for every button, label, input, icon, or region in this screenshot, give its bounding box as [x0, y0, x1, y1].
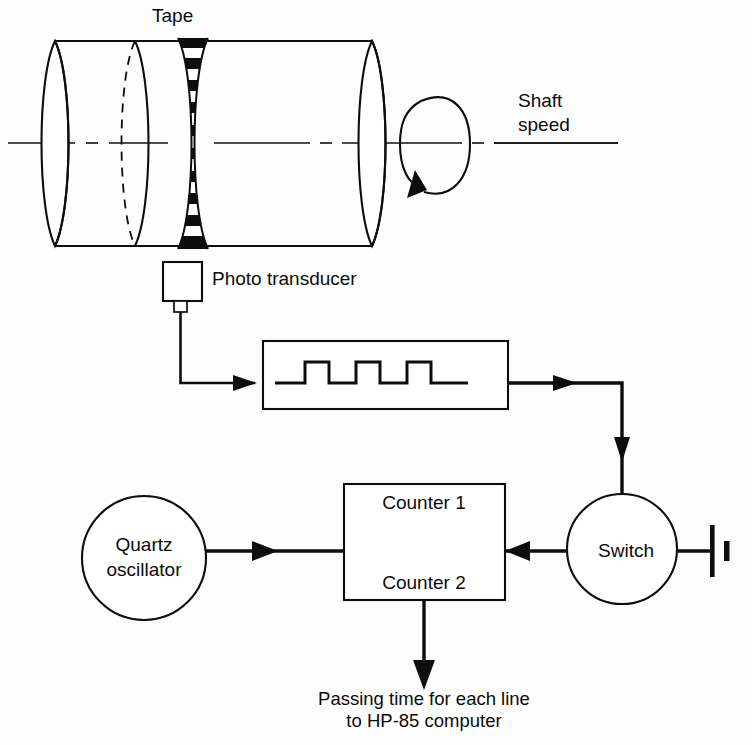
quartz-oscillator-label-line1: Quartz — [115, 534, 172, 555]
shaft-speed-label-line1: Shaft — [518, 90, 563, 111]
shaft-speed-label-line2: speed — [518, 114, 570, 135]
pulse-signal-box — [263, 341, 508, 409]
output-caption-line2: to HP-85 computer — [346, 710, 501, 731]
oscillator-to-counter-wire — [206, 541, 344, 561]
counter-2-label: Counter 2 — [382, 572, 465, 593]
striped-tape-band — [168, 38, 220, 249]
quartz-oscillator-label-line2: oscillator — [107, 559, 183, 580]
photo-transducer-label: Photo transducer — [212, 268, 357, 289]
diagram-canvas: Tape Shaft speed Photo transducer Quartz… — [0, 0, 752, 745]
output-caption-line1: Passing time for each line — [318, 688, 530, 709]
quartz-oscillator-node — [82, 496, 206, 620]
switch-to-counter-wire — [505, 541, 567, 561]
counter-output-arrow — [413, 600, 435, 690]
switch-label: Switch — [598, 540, 654, 561]
battery-cell-icon — [677, 525, 730, 577]
counter-1-label: Counter 1 — [382, 492, 465, 513]
transducer-to-pulse-wire — [181, 312, 258, 391]
pulse-to-switch-wire — [508, 375, 630, 494]
tape-label: Tape — [152, 5, 193, 26]
shaft-speed-measurement-diagram: Tape Shaft speed Photo transducer Quartz… — [0, 0, 752, 745]
rotation-arrow-icon — [400, 97, 470, 198]
photo-transducer-icon — [163, 262, 202, 312]
